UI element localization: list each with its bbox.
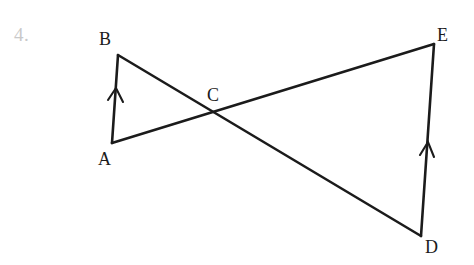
segment-ae — [112, 44, 434, 143]
vertex-label-a: A — [98, 150, 111, 168]
segment-bd — [118, 55, 421, 236]
segment-de — [421, 44, 434, 236]
geometry-figure: 4. A B C D E — [0, 0, 474, 265]
vertex-label-e: E — [437, 26, 448, 44]
vertex-label-b: B — [99, 30, 111, 48]
segment-ab — [112, 55, 118, 143]
geometry-diagram — [0, 0, 474, 265]
vertex-label-d: D — [425, 238, 438, 256]
vertex-label-c: C — [207, 86, 219, 104]
